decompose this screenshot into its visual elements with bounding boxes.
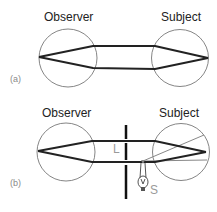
observer-label-a: Observer bbox=[44, 10, 93, 24]
subject-label-b: Subject bbox=[159, 106, 200, 120]
upper-gaze-ray-b bbox=[38, 141, 206, 152]
upper-gaze-ray-a bbox=[39, 46, 208, 58]
eye-contact-diagram: Observer Subject (a) Observer Subject L bbox=[0, 0, 217, 212]
source-label: S bbox=[150, 183, 158, 197]
panel-tag-b: (b) bbox=[10, 178, 21, 188]
lens-label: L bbox=[113, 142, 120, 156]
subject-eye-a bbox=[152, 30, 209, 87]
source-ray-upper bbox=[143, 135, 204, 161]
light-bulb-icon bbox=[138, 160, 148, 191]
subject-label-a: Subject bbox=[161, 10, 202, 24]
source-ray-lower bbox=[143, 160, 207, 161]
observer-label-b: Observer bbox=[42, 106, 91, 120]
panel-a: Observer Subject (a) bbox=[10, 10, 209, 87]
panel-b: Observer Subject L S (b) bbox=[10, 106, 210, 199]
panel-tag-a: (a) bbox=[10, 74, 21, 84]
lower-gaze-ray-a bbox=[39, 57, 208, 69]
